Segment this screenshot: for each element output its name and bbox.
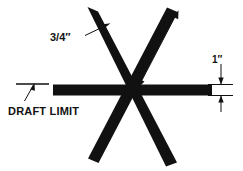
diagram-svg: 3/4″ 9″ 1″ DRAF: [0, 0, 243, 171]
bar-width-text: 3/4″: [50, 31, 71, 43]
arm-length-text: 9″: [147, 45, 159, 57]
draft-limit-text: DRAFT LIMIT: [8, 105, 79, 117]
bar-thickness-arrowhead-bottom: [218, 96, 223, 103]
arm-length-callout: 9″: [139, 10, 179, 87]
technical-drawing-canvas: 3/4″ 9″ 1″ DRAF: [0, 0, 243, 171]
bar-thickness-callout: 1″: [208, 54, 233, 112]
star-assembly: [53, 7, 212, 167]
bar-thickness-text: 1″: [212, 54, 223, 65]
bar-thickness-arrowhead-top: [218, 78, 223, 85]
